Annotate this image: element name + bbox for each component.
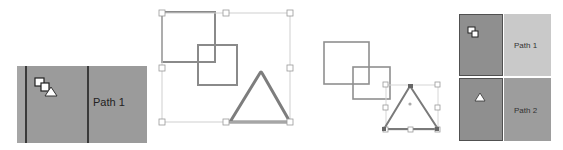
triangle-shape — [384, 86, 438, 129]
anchor-point — [382, 127, 386, 131]
resize-handle — [435, 82, 440, 87]
shapes-group — [162, 12, 290, 122]
center-point — [408, 102, 411, 105]
square-shape-2 — [198, 45, 237, 85]
resize-handle — [159, 65, 165, 71]
layer-label: Path 2 — [514, 106, 537, 115]
resize-handle — [287, 119, 293, 125]
resize-handle — [287, 65, 293, 71]
resize-handle — [159, 119, 165, 125]
triangle-selection-box — [386, 85, 438, 130]
square-shape-1 — [162, 12, 215, 62]
layer-thumbnail-cell — [459, 78, 503, 141]
layer-row-path-1[interactable]: Path 1 — [459, 14, 551, 76]
resize-handle — [408, 127, 413, 132]
selection-box[interactable] — [159, 10, 293, 125]
layer-label: Path 1 — [514, 41, 537, 50]
resize-handle — [383, 105, 388, 110]
layers-list: Path 1 Path 2 — [459, 14, 551, 141]
triangle-shape — [230, 72, 290, 122]
square-shape-1 — [324, 42, 369, 84]
anchor-point — [435, 127, 439, 131]
resize-handle — [287, 10, 293, 16]
two-squares-icon — [467, 26, 481, 40]
layer-row-path-2[interactable]: Path 2 — [459, 78, 551, 141]
canvas-separate-selection — [324, 42, 440, 132]
resize-handle — [435, 105, 440, 110]
resize-handle — [383, 82, 388, 87]
resize-handle — [223, 10, 229, 16]
triangle-icon — [474, 92, 486, 102]
layer-thumbnail-cell — [459, 14, 503, 76]
resize-handle — [159, 10, 165, 16]
resize-handle — [223, 119, 229, 125]
anchor-point — [408, 84, 413, 88]
